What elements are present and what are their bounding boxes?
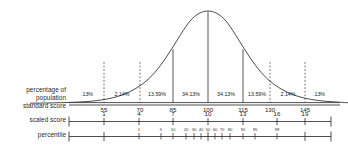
scaled-score-tick-16: 16 (274, 110, 281, 117)
scaled-score-tick-10: 10 (205, 110, 212, 117)
percentile-tick-70: 70 (220, 127, 225, 132)
percentile-tick-95: 95 (253, 127, 258, 132)
percentage-band-1: .13% (81, 91, 93, 97)
row-label-percentage: percentage ofpopulation (6, 86, 66, 101)
scaled-score-tick-7: 7 (171, 110, 174, 117)
percentile-tick-80: 80 (228, 127, 233, 132)
row-label-scaled-score: scaled score (6, 116, 66, 124)
row-label-percentage-line1: percentage of (26, 86, 66, 93)
percentile-tick-1: 1 (138, 127, 140, 132)
percentage-band-2: 2.14% (114, 91, 129, 97)
percentage-band-4: 34.13% (182, 91, 200, 97)
percentile-tick-40: 40 (199, 127, 204, 132)
row-label-percentile: percentile (6, 131, 66, 139)
percentile-tick-60: 60 (213, 127, 218, 132)
scaled-score-tick-19: 19 (302, 110, 309, 117)
percentage-band-7: 2.14% (280, 91, 295, 97)
percentage-band-6: 13.59% (248, 91, 266, 97)
percentile-tick-50: 50 (206, 127, 211, 132)
scaled-score-tick-4: 4 (137, 110, 140, 117)
normal-distribution-chart: percentage ofpopulation standard score s… (0, 0, 348, 150)
percentage-band-8: .13% (313, 91, 325, 97)
scaled-score-tick-13: 13 (240, 110, 247, 117)
row-label-standard-score: standard score (6, 102, 66, 110)
percentile-tick-20: 20 (184, 127, 189, 132)
bell-curve-path (30, 11, 348, 103)
percentile-tick-99: 99 (275, 127, 280, 132)
percentage-band-5: 34.13% (217, 91, 235, 97)
percentile-tick-30: 30 (192, 127, 197, 132)
percentile-tick-10: 10 (171, 127, 176, 132)
scaled-score-tick-1: 1 (102, 110, 105, 117)
percentage-band-3: 13.59% (148, 91, 166, 97)
row-label-percentage-line2: population (36, 94, 66, 101)
percentile-tick-5: 5 (160, 127, 162, 132)
percentile-tick-90: 90 (241, 127, 246, 132)
